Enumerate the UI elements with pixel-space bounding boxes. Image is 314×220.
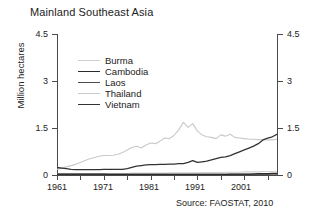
x-tick-2006 [268, 176, 269, 180]
y-tick-label-right-2: 3 [287, 76, 314, 86]
y-tick-label-right-3: 4.5 [287, 29, 314, 39]
y-tick-right-2 [278, 81, 283, 82]
legend-label: Laos [105, 77, 126, 88]
x-tick-label-1991: 1991 [175, 182, 215, 192]
y-tick-label-left-2: 3 [20, 76, 48, 86]
y-tick-label-right-0: 0 [287, 170, 314, 180]
legend-item-cambodia: Cambodia [78, 66, 148, 77]
x-tick-1966 [80, 176, 81, 180]
x-tick-1961 [57, 176, 58, 180]
legend-item-vietnam: Vietnam [78, 99, 148, 110]
legend-swatch-icon [78, 60, 100, 61]
y-tick-label-left-0: 0 [20, 170, 48, 180]
legend-label: Burma [105, 55, 133, 66]
series-line-thailand [57, 122, 277, 169]
y-tick-right-0 [278, 175, 283, 176]
x-tick-1986 [174, 176, 175, 180]
y-tick-label-right-1: 1.5 [287, 123, 314, 133]
legend-item-laos: Laos [78, 77, 148, 88]
series-line-burma [57, 171, 277, 174]
legend: BurmaCambodiaLaosThailandVietnam [78, 55, 148, 110]
legend-label: Cambodia [105, 66, 148, 77]
y-tick-label-left-1: 1.5 [20, 123, 48, 133]
series-line-cambodia [57, 173, 277, 174]
legend-swatch-icon [78, 71, 100, 72]
x-tick-label-2001: 2001 [221, 182, 261, 192]
x-tick-label-1971: 1971 [83, 182, 123, 192]
y-tick-right-3 [278, 34, 283, 35]
legend-label: Vietnam [105, 99, 140, 110]
y-tick-label-left-3: 4.5 [20, 29, 48, 39]
legend-swatch-icon [78, 104, 100, 105]
y-axis-right [277, 34, 278, 176]
legend-item-burma: Burma [78, 55, 148, 66]
x-tick-1996 [221, 176, 222, 180]
page-title: Mainland Southeast Asia [30, 6, 153, 18]
x-tick-1971 [104, 176, 105, 180]
legend-swatch-icon [78, 93, 100, 94]
x-tick-1976 [127, 176, 128, 180]
x-tick-1991 [197, 176, 198, 180]
x-tick-label-1981: 1981 [129, 182, 169, 192]
x-tick-2001 [244, 176, 245, 180]
y-tick-right-1 [278, 128, 283, 129]
x-tick-label-1961: 1961 [37, 182, 77, 192]
series-line-vietnam [57, 134, 277, 169]
legend-swatch-icon [78, 82, 100, 83]
x-tick-1981 [151, 176, 152, 180]
chart-figure: Mainland Southeast Asia Million hectares… [0, 0, 314, 220]
legend-item-thailand: Thailand [78, 88, 148, 99]
legend-label: Thailand [105, 88, 141, 99]
source-note: Source: FAOSTAT, 2010 [176, 198, 273, 208]
